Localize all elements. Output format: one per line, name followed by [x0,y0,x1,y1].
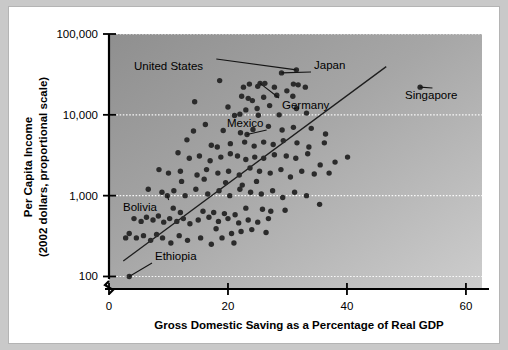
data-point [226,169,231,174]
data-point [259,191,264,196]
data-point [237,172,242,177]
y-axis-title-line1: Per Capita Income [22,117,34,217]
annotation-label-singapore: Singapore [405,89,457,101]
data-point [238,130,243,135]
data-point [323,131,328,136]
data-point [345,154,350,159]
y-tick-label-10,000: 10,000 [63,109,98,121]
data-point [196,217,201,222]
data-point [261,156,266,161]
data-point [232,212,237,217]
data-point [227,193,232,198]
data-point [217,78,222,83]
data-point [276,112,281,117]
data-point [204,167,209,172]
data-point [240,182,245,187]
data-point [291,81,296,86]
x-tick-label-60: 60 [460,300,473,312]
data-point [184,137,189,142]
data-point [251,143,256,148]
data-point [225,216,230,221]
data-point [229,231,234,236]
annotation-label-ethiopia: Ethiopia [155,250,197,262]
y-tick-label-100: 100 [79,270,98,282]
y-tick-label-100,000: 100,000 [56,28,98,40]
data-point [246,217,251,222]
data-point [304,193,309,198]
data-point [255,84,260,89]
data-point [248,190,253,195]
data-point [317,202,322,207]
data-point [254,106,259,111]
data-point [146,187,151,192]
data-point [282,208,287,213]
data-point [255,219,260,224]
data-point [219,235,224,240]
data-point [288,174,293,179]
x-tick-label-40: 40 [341,300,354,312]
data-point [141,233,146,238]
data-point [185,238,190,243]
data-point [168,240,173,245]
data-point [187,221,192,226]
data-point [213,226,218,231]
data-point [207,158,212,163]
y-tick-label-1,000: 1,000 [69,190,98,202]
data-point [175,150,180,155]
data-point [291,125,296,130]
data-point [305,151,310,156]
data-point [306,144,311,149]
data-point [272,84,277,89]
data-point [266,124,271,129]
data-point [267,103,272,108]
data-point [198,235,203,240]
data-point [200,209,205,214]
data-point [250,98,255,103]
data-point [148,238,153,243]
data-point [209,143,214,148]
data-point [177,233,182,238]
data-point [242,139,247,144]
chart-figure: United StatesJapanGermanyMexicoSingapore… [8,6,500,344]
data-point [187,156,192,161]
annotation-label-united-states: United States [134,60,203,72]
data-point [312,171,317,176]
data-point [171,188,176,193]
data-point [205,191,210,196]
data-point [161,219,166,224]
data-point [257,169,262,174]
data-point [160,235,165,240]
data-point [254,179,259,184]
data-point [279,127,284,132]
data-point [280,195,285,200]
data-point [304,110,309,115]
data-point [131,216,136,221]
data-point [167,216,172,221]
data-point [294,140,299,145]
data-point [247,165,252,170]
data-point [165,193,170,198]
data-point [292,190,297,195]
data-point [303,84,308,89]
data-point [236,220,241,225]
data-point [201,176,206,181]
data-point [243,205,248,210]
data-point [260,206,265,211]
data-point [231,240,236,245]
data-point [203,122,208,127]
data-point [223,180,228,185]
data-point [228,141,233,146]
data-point [278,167,283,172]
annotation-label-germany: Germany [282,99,330,111]
data-point [225,104,230,109]
data-point [228,151,233,156]
data-point [197,153,202,158]
data-point [222,211,227,216]
data-point [270,142,275,147]
data-point [247,81,252,86]
data-point [211,210,216,215]
data-point [178,210,183,215]
data-point [138,219,143,224]
data-point [221,128,226,133]
data-point [209,242,214,247]
